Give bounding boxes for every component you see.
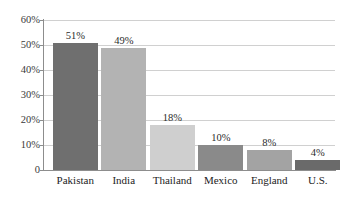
y-axis-tick-label: 50% [2, 40, 40, 51]
y-axis-tick-label: 0 [2, 165, 40, 176]
y-axis-tick-mark [40, 95, 44, 96]
y-axis-tick-label: 40% [2, 65, 40, 76]
y-axis-tick-mark [40, 145, 44, 146]
y-axis-tick-mark [40, 70, 44, 71]
y-axis-tick-label: 60% [2, 15, 40, 26]
y-axis-tick-label: 30% [2, 90, 40, 101]
y-axis-tick-label: 20% [2, 115, 40, 126]
y-axis-tick-label: 10% [2, 140, 40, 151]
y-axis-tick-mark [40, 45, 44, 46]
x-axis-category-label: U.S. [286, 174, 343, 186]
y-axis-tick-mark [40, 120, 44, 121]
x-axis-label-group: PakistanIndiaThailandMexicoEnglandU.S. [44, 0, 335, 199]
y-axis-tick-mark [40, 20, 44, 21]
y-axis-label-group: 010%20%30%40%50%60% [0, 0, 40, 199]
y-axis-tick-mark [40, 170, 44, 171]
bar-chart-figure: 010%20%30%40%50%60% 51%49%18%10%8%4% Pak… [0, 0, 343, 199]
